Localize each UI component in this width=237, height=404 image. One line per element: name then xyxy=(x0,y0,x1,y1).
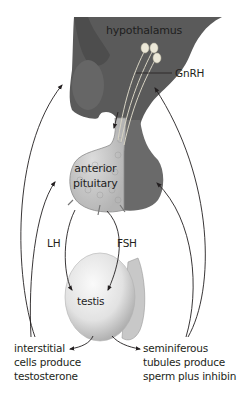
feedback-seminiferous-to-hypothalamus xyxy=(155,88,205,337)
seminiferous-tubules-label: seminiferous tubules produce sperm plus … xyxy=(143,341,236,383)
gnrh-label: GnRH xyxy=(175,67,204,80)
fsh-label: FSH xyxy=(117,237,137,250)
feedback-interstitial-to-pituitary xyxy=(30,182,55,337)
feedback-seminiferous-to-pituitary xyxy=(157,183,193,337)
feedback-interstitial-to-hypothalamus xyxy=(21,85,62,337)
lh-label: LH xyxy=(47,237,60,250)
hypothalamus-label: hypothalamus xyxy=(106,24,182,37)
interstitial-cells-label: interstitial cells produce testosterone xyxy=(14,341,81,383)
anterior-pituitary-label: anterior pituitary xyxy=(73,161,118,191)
testis-label: testis xyxy=(77,295,104,308)
